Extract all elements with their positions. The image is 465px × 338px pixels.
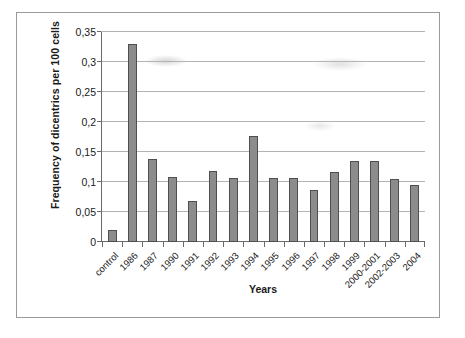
chart-figure-frame: Frequency of dicentrics per 100 cells 00…	[16, 12, 440, 318]
bar-slot	[324, 32, 344, 242]
y-tick-mark	[97, 31, 101, 32]
bar[interactable]	[410, 185, 419, 242]
bar[interactable]	[249, 136, 258, 242]
bar-slot	[203, 32, 223, 242]
bar[interactable]	[390, 179, 399, 242]
y-tick-label: 0,1	[81, 176, 96, 188]
bar[interactable]	[350, 161, 359, 242]
bar-slot	[183, 32, 203, 242]
y-tick-mark	[97, 181, 101, 182]
y-tick-label: 0,25	[76, 86, 96, 98]
y-tick-label: 0,05	[76, 206, 96, 218]
y-axis-title: Frequency of dicentrics per 100 cells	[49, 15, 61, 215]
bar-slot	[364, 32, 384, 242]
bar-slot	[142, 32, 162, 242]
bar-slot	[284, 32, 304, 242]
bar-slot	[243, 32, 263, 242]
y-tick-label: 0	[90, 236, 96, 248]
plot-area: 00,050,10,150,20,250,30,35 control198619…	[101, 32, 425, 242]
x-axis-title: Years	[101, 283, 425, 295]
bar[interactable]	[370, 161, 379, 242]
bar-slot	[405, 32, 425, 242]
bar[interactable]	[229, 178, 238, 242]
bar-slot	[102, 32, 122, 242]
bar[interactable]	[209, 171, 218, 242]
y-tick-mark	[97, 151, 101, 152]
y-tick-label: 0,2	[81, 116, 96, 128]
plot-inner: 00,050,10,150,20,250,30,35 control198619…	[101, 32, 425, 242]
y-tick-label: 0,35	[76, 26, 96, 38]
y-tick-label: 0,3	[81, 56, 96, 68]
bar-slot	[223, 32, 243, 242]
bar-slot	[304, 32, 324, 242]
bar[interactable]	[289, 178, 298, 242]
y-tick-mark	[97, 211, 101, 212]
bar-slot	[385, 32, 405, 242]
bar-slot	[122, 32, 142, 242]
y-tick-label: 0,15	[76, 146, 96, 158]
bar[interactable]	[330, 172, 339, 242]
bar-slot	[264, 32, 284, 242]
bar[interactable]	[108, 230, 117, 242]
bar-slot	[344, 32, 364, 242]
bar[interactable]	[188, 201, 197, 242]
bar[interactable]	[148, 159, 157, 242]
bars-group	[102, 32, 425, 242]
y-tick-mark	[97, 61, 101, 62]
bar-slot	[163, 32, 183, 242]
bar[interactable]	[128, 44, 137, 242]
y-tick-mark	[97, 91, 101, 92]
bar[interactable]	[269, 178, 278, 242]
bar[interactable]	[168, 177, 177, 242]
bar[interactable]	[310, 190, 319, 242]
y-tick-mark	[97, 241, 101, 242]
x-tick-label: control	[92, 250, 120, 278]
y-tick-mark	[97, 121, 101, 122]
